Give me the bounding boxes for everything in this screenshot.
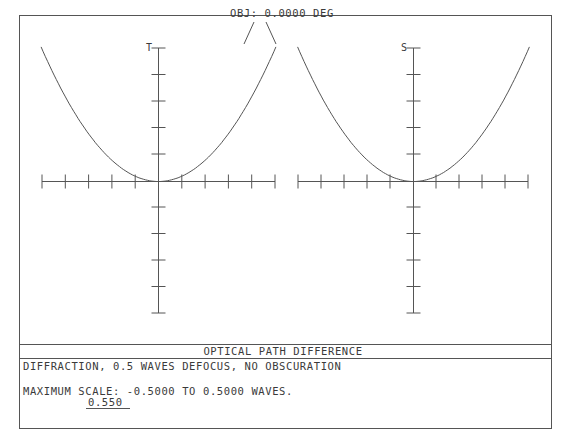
wavelength-value: 0.550 [88, 396, 123, 408]
s-axis-label: S [401, 42, 407, 53]
opd-plot-canvas [0, 0, 566, 441]
description-text: DIFFRACTION, 0.5 WAVES DEFOCUS, NO OBSCU… [23, 360, 341, 372]
scale-text: MAXIMUM SCALE: -0.5000 TO 0.5000 WAVES. [23, 385, 293, 397]
field-angle-label: OBJ: 0.0000 DEG [230, 7, 334, 19]
plot-title: OPTICAL PATH DIFFERENCE [0, 345, 566, 357]
t-axis-label: T [146, 42, 152, 53]
sagittal-plot [298, 47, 530, 313]
leader-line-right [266, 22, 276, 44]
opd-plot-figure: OBJ: 0.0000 DEG T S OPTICAL PATH DIFFERE… [0, 0, 566, 441]
leader-line-left [244, 22, 254, 44]
tangential-plot [41, 47, 276, 313]
